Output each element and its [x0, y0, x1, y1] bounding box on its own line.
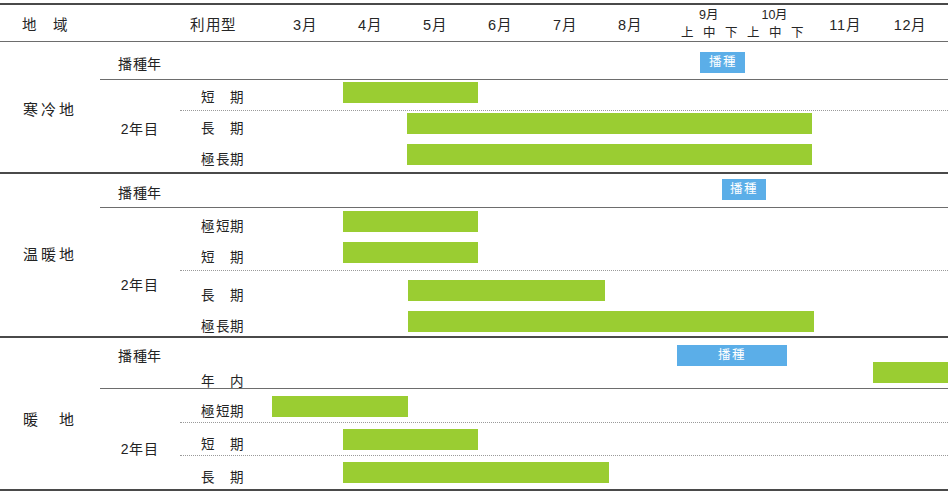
month-header-8: 8月	[609, 13, 651, 34]
month-header-10: 10月	[753, 4, 797, 23]
rule-s1-sowing-bottom	[100, 79, 948, 80]
sowing-bar-ondanchi: 播種	[722, 179, 766, 200]
rule-s2-r1-bottom	[180, 270, 948, 271]
rule-s3-r1-bottom	[180, 422, 948, 423]
region-label-kanreichi: 寒冷地	[0, 98, 100, 119]
rule-bottom	[0, 489, 948, 491]
rule-section2-bottom	[0, 336, 948, 338]
use-bar-s2-r3	[408, 311, 814, 332]
use-bar-s2-r2	[408, 280, 605, 301]
rule-s2-sowing-bottom	[100, 207, 948, 208]
rule-s3-r2-bottom	[180, 455, 948, 456]
use-bar-s1-r0	[343, 82, 478, 103]
year-label-sowing-2: 播種年	[100, 182, 180, 202]
use-bar-s2-r0	[343, 211, 478, 232]
type-label-s3-r2: 短 期	[180, 433, 266, 453]
type-label-s2-r0: 極短期	[180, 215, 266, 235]
type-label-s3-r3: 長 期	[180, 466, 266, 486]
month-header-4: 4月	[349, 13, 391, 34]
year-label-sowing-1: 播種年	[100, 53, 180, 73]
rule-header-bottom	[0, 41, 948, 42]
dekad-9-early: 上	[678, 22, 696, 41]
year-label-year2-2: 2年目	[100, 274, 180, 294]
use-bar-s1-r1	[407, 113, 812, 134]
month-header-11: 11月	[824, 13, 866, 34]
month-header-3: 3月	[284, 13, 326, 34]
use-bar-s2-r1	[343, 242, 478, 263]
rule-section1-bottom	[0, 172, 948, 174]
sowing-bar-kanreichi: 播種	[700, 52, 745, 73]
growth-calendar-chart: 地 域 利用型 3月 4月 5月 6月 7月 8月 9月 10月 上 中 下 上…	[0, 0, 948, 501]
year-label-year2-1: 2年目	[100, 118, 180, 138]
dekad-9-mid: 中	[700, 22, 718, 41]
sowing-bar-label: 播種	[709, 56, 737, 69]
chart-header: 地 域 利用型 3月 4月 5月 6月 7月 8月 9月 10月 上 中 下 上…	[0, 0, 948, 42]
type-label-s1-r2: 極長期	[180, 148, 266, 168]
year-label-year2-3: 2年目	[100, 438, 180, 458]
dekad-10-mid: 中	[766, 22, 784, 41]
month-header-7: 7月	[544, 13, 586, 34]
sowing-bar-label: 播種	[718, 349, 746, 362]
rule-s3-sowing-bottom	[100, 388, 948, 389]
type-label-s3-r1: 極短期	[180, 400, 266, 420]
type-label-s2-r3: 極長期	[180, 315, 266, 335]
sowing-bar-danchi: 播種	[677, 345, 787, 366]
header-type-label: 利用型	[190, 13, 237, 34]
type-label-s1-r1: 長 期	[180, 117, 266, 137]
type-label-s1-r0: 短 期	[180, 86, 266, 106]
month-header-12: 12月	[889, 13, 931, 34]
month-header-6: 6月	[479, 13, 521, 34]
use-bar-s3-r0	[873, 362, 948, 383]
rule-s1-r0-bottom	[180, 110, 948, 111]
dekad-9-late: 下	[722, 22, 740, 41]
type-label-s3-r0: 年 内	[180, 370, 266, 390]
dekad-10-early: 上	[744, 22, 762, 41]
type-label-s2-r2: 長 期	[180, 284, 266, 304]
use-bar-s3-r3	[343, 462, 609, 483]
year-label-sowing-3: 播種年	[100, 345, 180, 365]
region-label-danchi: 暖 地	[0, 408, 100, 429]
use-bar-s3-r2	[343, 429, 478, 450]
rule-top	[0, 3, 948, 5]
month-header-5: 5月	[414, 13, 456, 34]
use-bar-s1-r2	[407, 144, 812, 165]
dekad-10-late: 下	[788, 22, 806, 41]
sowing-bar-label: 播種	[730, 183, 758, 196]
type-label-s2-r1: 短 期	[180, 246, 266, 266]
region-label-ondanchi: 温暖地	[0, 243, 100, 264]
use-bar-s3-r1	[272, 396, 408, 417]
month-header-9: 9月	[687, 4, 731, 23]
header-region-label: 地 域	[22, 13, 69, 34]
